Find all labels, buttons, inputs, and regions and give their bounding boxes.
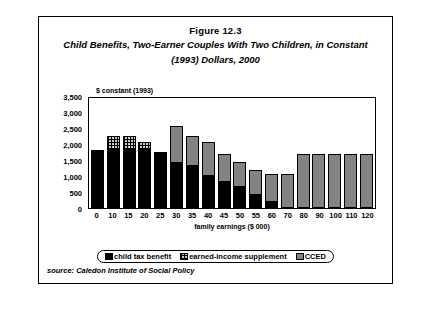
- x-tick-label: 20: [138, 211, 151, 223]
- bar-segment-cced: [297, 154, 310, 208]
- legend-swatch-icon: [180, 253, 188, 260]
- y-tick-label: 3,000: [63, 109, 82, 118]
- source-note: source: Caledon Institute of Social Poli…: [47, 266, 195, 275]
- x-tick-label: 50: [233, 211, 246, 223]
- legend-label: child tax benefit: [114, 252, 171, 261]
- title-block: Figure 12.3 Child Benefits, Two-Earner C…: [39, 24, 392, 66]
- bar-segment-cced: [328, 154, 341, 208]
- bar-column[interactable]: [91, 98, 104, 208]
- bar-segment-cced: [233, 162, 246, 188]
- bar-column[interactable]: [344, 98, 357, 208]
- bar-column[interactable]: [138, 98, 151, 208]
- bar-column[interactable]: [202, 98, 215, 208]
- x-tick-label: 120: [361, 211, 374, 223]
- bar-segment-child-tax-benefit: [91, 150, 104, 208]
- bar-column[interactable]: [281, 98, 294, 208]
- bar-column[interactable]: [107, 98, 120, 208]
- bar-column[interactable]: [297, 98, 310, 208]
- x-tick-label: 55: [249, 211, 262, 223]
- legend-label: earned-income supplement: [189, 252, 287, 261]
- bar-column[interactable]: [265, 98, 278, 208]
- bar-column[interactable]: [218, 98, 231, 208]
- y-axis-tick-labels: 05001,0001,5002,0002,5003,0003,500: [39, 97, 85, 209]
- bar-segment-child-tax-benefit: [249, 195, 262, 208]
- x-tick-label: 60: [265, 211, 278, 223]
- legend: child tax benefitearned-income supplemen…: [39, 250, 392, 263]
- bar-column[interactable]: [360, 98, 373, 208]
- bar-segment-child-tax-benefit: [233, 187, 246, 208]
- bar-segment-child-tax-benefit: [218, 182, 231, 208]
- x-tick-label: 40: [202, 211, 215, 223]
- bar-segment-child-tax-benefit: [265, 202, 278, 208]
- x-axis-tick-labels: 01015202530354045505560708090100110120: [88, 211, 376, 223]
- bar-column[interactable]: [186, 98, 199, 208]
- bar-segment-child-tax-benefit: [186, 166, 199, 208]
- x-tick-label: 0: [90, 211, 103, 223]
- bar-segment-cced: [170, 126, 183, 163]
- bar-segment-cced: [249, 170, 262, 196]
- bar-segment-child-tax-benefit: [138, 150, 151, 208]
- x-tick-label: 25: [154, 211, 167, 223]
- bar-segment-child-tax-benefit: [202, 176, 215, 208]
- y-tick-label: 2,500: [63, 125, 82, 134]
- bar-segment-earned-income-supplement: [123, 136, 136, 150]
- bar-segment-child-tax-benefit: [154, 152, 167, 208]
- legend-swatch-icon: [105, 253, 113, 260]
- bar-segment-cced: [281, 174, 294, 208]
- bar-column[interactable]: [328, 98, 341, 208]
- y-tick-label: 2,000: [63, 141, 82, 150]
- bar-column[interactable]: [123, 98, 136, 208]
- bar-segment-cced: [360, 154, 373, 208]
- x-tick-label: 100: [329, 211, 342, 223]
- x-axis-title: family earnings ($ 000): [88, 223, 376, 230]
- y-axis-title: $ constant (1993): [96, 87, 153, 94]
- figure-title-line-1: Child Benefits, Two-Earner Couples With …: [39, 37, 392, 52]
- x-tick-label: 80: [297, 211, 310, 223]
- bar-column[interactable]: [249, 98, 262, 208]
- y-tick-label: 0: [78, 205, 82, 214]
- y-tick-label: 1,500: [63, 157, 82, 166]
- bar-segment-cced: [186, 136, 199, 166]
- bar-column[interactable]: [170, 98, 183, 208]
- x-tick-label: 90: [313, 211, 326, 223]
- legend-item-child-tax-benefit[interactable]: child tax benefit: [105, 252, 171, 261]
- figure-title-line-2: (1993) Dollars, 2000: [39, 52, 392, 67]
- x-tick-label: 30: [170, 211, 183, 223]
- bars-container: [89, 98, 375, 208]
- figure-number: Figure 12.3: [39, 24, 392, 37]
- y-tick-label: 1,000: [63, 173, 82, 182]
- bar-segment-child-tax-benefit: [107, 150, 120, 208]
- bar-segment-cced: [312, 154, 325, 208]
- x-tick-label: 45: [218, 211, 231, 223]
- x-tick-label: 70: [281, 211, 294, 223]
- figure-frame: Figure 12.3 Child Benefits, Two-Earner C…: [38, 16, 393, 284]
- bar-column[interactable]: [233, 98, 246, 208]
- y-tick-label: 500: [69, 189, 82, 198]
- legend-item-earned-income-supplement[interactable]: earned-income supplement: [180, 252, 287, 261]
- y-tick-label: 3,500: [63, 93, 82, 102]
- legend-label: CCED: [305, 252, 326, 261]
- bar-segment-cced: [202, 142, 215, 176]
- bar-segment-child-tax-benefit: [170, 163, 183, 208]
- bar-segment-cced: [218, 154, 231, 183]
- legend-swatch-icon: [296, 253, 304, 260]
- x-tick-label: 15: [122, 211, 135, 223]
- plot-area: [88, 97, 376, 209]
- x-tick-label: 10: [106, 211, 119, 223]
- bar-segment-earned-income-supplement: [107, 136, 120, 150]
- x-tick-label: 110: [345, 211, 358, 223]
- bar-segment-earned-income-supplement: [138, 142, 151, 150]
- bar-segment-cced: [344, 154, 357, 208]
- bar-segment-child-tax-benefit: [123, 150, 136, 208]
- x-tick-label: 35: [186, 211, 199, 223]
- legend-item-cced[interactable]: CCED: [296, 252, 326, 261]
- legend-box: child tax benefitearned-income supplemen…: [97, 250, 334, 263]
- bar-segment-cced: [265, 174, 278, 201]
- chart-area: $ constant (1993) 05001,0001,5002,0002,5…: [39, 87, 394, 237]
- bar-column[interactable]: [312, 98, 325, 208]
- bar-column[interactable]: [154, 98, 167, 208]
